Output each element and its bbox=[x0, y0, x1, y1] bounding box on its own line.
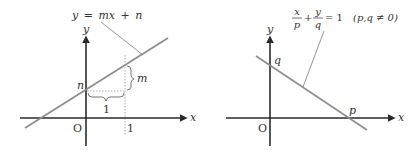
origin-label: O bbox=[258, 122, 267, 135]
intercept-form-figure: x p + y q = 1 (p,q ≠ 0) y x O q p bbox=[226, 6, 405, 146]
run-brace bbox=[88, 93, 124, 101]
frac2-numerator: y bbox=[314, 6, 321, 17]
slope-intercept-figure: y = mx + n y x O 1 n m 1 bbox=[20, 9, 197, 146]
eq-lhs: y bbox=[71, 9, 79, 22]
eq-n: n bbox=[135, 9, 142, 22]
y-axis-label: y bbox=[266, 23, 274, 36]
run-1-label: 1 bbox=[103, 103, 110, 116]
y-intercept-q-label: q bbox=[274, 54, 281, 67]
equation-leader bbox=[303, 31, 324, 87]
svg-text:y = mx +: y = mx + n bbox=[71, 9, 142, 22]
eq-condition: (p,q ≠ 0) bbox=[353, 12, 398, 23]
graph-line bbox=[256, 56, 367, 130]
eq-equals-one: = 1 bbox=[325, 12, 343, 23]
eq-plus: + bbox=[304, 12, 312, 23]
x-tick-1-label: 1 bbox=[127, 122, 134, 135]
x-intercept-p-label: p bbox=[349, 104, 356, 117]
rise-m-label: m bbox=[137, 72, 147, 85]
eq-equals: = bbox=[84, 9, 93, 22]
frac1-denominator: p bbox=[294, 19, 301, 30]
rise-brace bbox=[127, 66, 134, 90]
x-axis-label: x bbox=[190, 111, 197, 124]
diagram-canvas: y = mx + n y x O 1 n m 1 x p + y q bbox=[0, 0, 417, 158]
frac1-numerator: x bbox=[294, 6, 300, 17]
eq-plus: + bbox=[121, 9, 130, 22]
intercept-n-label: n bbox=[77, 79, 84, 92]
origin-label: O bbox=[73, 122, 82, 135]
eq-mx: mx bbox=[98, 9, 115, 22]
x-axis-label: x bbox=[398, 111, 405, 124]
intercept-equation: x p + y q = 1 (p,q ≠ 0) bbox=[292, 6, 398, 30]
frac2-denominator: q bbox=[315, 19, 321, 30]
equation-leader bbox=[101, 22, 143, 55]
y-axis-label: y bbox=[82, 23, 90, 36]
